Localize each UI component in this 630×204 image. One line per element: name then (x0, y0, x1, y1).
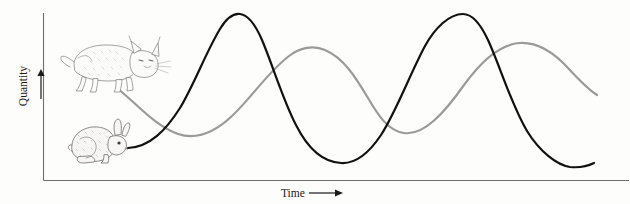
up-arrow-icon (36, 69, 46, 99)
lynx-illustration (60, 33, 172, 95)
y-axis-label-text: Quantity (17, 66, 29, 106)
x-axis-label-text: Time (281, 187, 305, 199)
right-arrow-icon (309, 188, 343, 198)
x-axis-label-group: Time (281, 183, 343, 201)
hare-illustration (66, 117, 132, 167)
plot-area (0, 0, 630, 204)
predator-prey-cycle-figure: Quantity Time (0, 0, 630, 204)
y-axis-label-group: Quantity (13, 56, 33, 116)
hare-population-curve (128, 14, 594, 167)
